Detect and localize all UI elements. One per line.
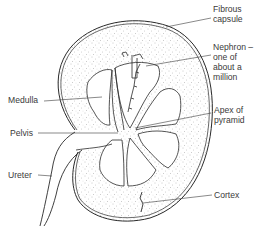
label-nephron: Nephron – one of about a million: [213, 42, 253, 82]
fibrous-capsule-outline: [58, 21, 212, 221]
label-pelvis: Pelvis: [10, 128, 33, 138]
label-fibrous-capsule: Fibrous capsule: [213, 4, 243, 24]
label-ureter: Ureter: [8, 170, 32, 180]
label-medulla: Medulla: [8, 95, 38, 105]
label-cortex: Cortex: [214, 190, 239, 200]
label-apex-of-pyramid: Apex of pyramid: [214, 105, 245, 125]
